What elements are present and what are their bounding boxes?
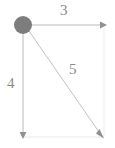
diagonal-vector-label: 5 xyxy=(69,62,77,77)
diagram-canvas xyxy=(0,0,115,148)
diagonal-vector-line xyxy=(29,31,99,132)
vertical-arrowhead-icon xyxy=(20,132,27,139)
horizontal-arrowhead-icon xyxy=(100,22,107,29)
vertical-vector-label: 4 xyxy=(7,76,15,91)
horizontal-vector-label: 3 xyxy=(60,3,68,18)
origin-vertex-dot xyxy=(14,16,32,34)
vector-diagram: 3 4 5 xyxy=(0,0,115,148)
